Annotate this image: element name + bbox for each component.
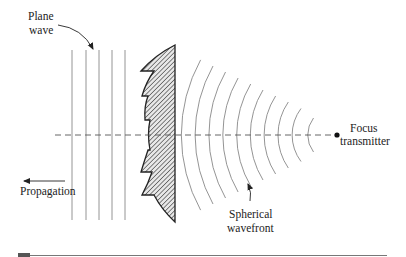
plane-wave-label-line2: wave — [29, 24, 53, 37]
plane-wave-pointer — [58, 25, 93, 49]
propagation-label: Propagation — [20, 185, 76, 198]
plane-wave-label-line1: Plane — [28, 10, 54, 23]
focus-label-line2: transmitter — [340, 135, 390, 148]
focus-point — [334, 132, 339, 137]
diagram-canvas — [0, 0, 406, 257]
rule-block — [18, 253, 30, 257]
spherical-label-line1: Spherical — [229, 208, 272, 221]
spherical-label-line2: wavefront — [227, 222, 274, 235]
spherical-wavefront-pointer — [248, 184, 251, 201]
lens-diagram: Plane wave Propagation Focus transmitter… — [0, 0, 406, 257]
fresnel-lens — [141, 45, 175, 222]
focus-label-line1: Focus — [350, 122, 377, 135]
